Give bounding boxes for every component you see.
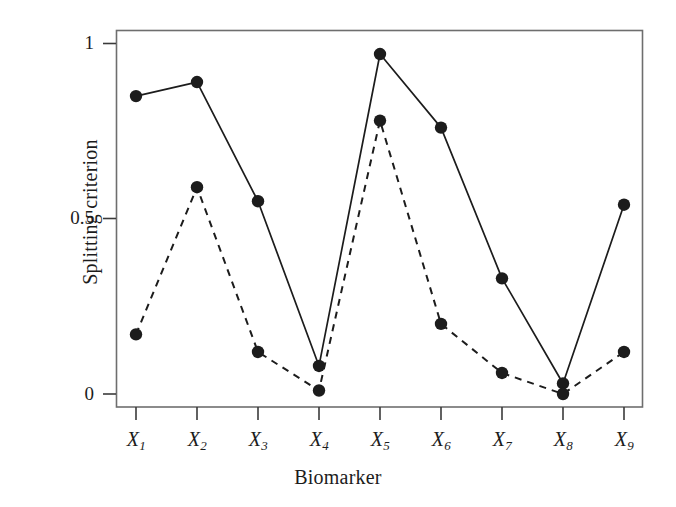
x-tick-subscript: 2 xyxy=(200,438,207,453)
x-tick-label-x6: X6 xyxy=(411,428,471,451)
y-tick-label-0: 0 xyxy=(64,383,94,405)
data-point xyxy=(557,388,569,400)
x-tick-base: X xyxy=(127,428,139,450)
x-tick-subscript: 5 xyxy=(383,438,390,453)
data-point xyxy=(130,90,142,102)
y-axis-title-wrapper: Splitting criterion xyxy=(79,42,105,382)
series-dashed xyxy=(130,114,630,400)
x-tick-base: X xyxy=(432,428,444,450)
x-tick-label-x3: X3 xyxy=(228,428,288,451)
chart-figure: 1 0.5 0 X1X2X3X4X5X6X7X8X9 Biomarker Spl… xyxy=(0,0,676,507)
x-tick-label-x1: X1 xyxy=(106,428,166,451)
data-point xyxy=(618,346,630,358)
x-tick-label-x5: X5 xyxy=(350,428,410,451)
data-point xyxy=(313,384,325,396)
x-tick-subscript: 3 xyxy=(261,438,268,453)
x-tick-subscript: 8 xyxy=(566,438,573,453)
x-tick-base: X xyxy=(310,428,322,450)
x-tick-subscript: 7 xyxy=(505,438,512,453)
x-tick-base: X xyxy=(554,428,566,450)
x-tick-base: X xyxy=(249,428,261,450)
y-axis-title: Splitting criterion xyxy=(79,42,102,382)
data-point xyxy=(496,367,508,379)
x-tick-label-x4: X4 xyxy=(289,428,349,451)
series-line-solid xyxy=(136,54,624,383)
x-tick-label-x8: X8 xyxy=(533,428,593,451)
data-point xyxy=(191,181,203,193)
data-point xyxy=(374,114,386,126)
data-point xyxy=(435,318,447,330)
data-point xyxy=(435,121,447,133)
x-tick-subscript: 4 xyxy=(322,438,329,453)
data-point xyxy=(313,360,325,372)
data-point xyxy=(496,272,508,284)
x-tick-label-x2: X2 xyxy=(167,428,227,451)
x-tick-subscript: 9 xyxy=(627,438,634,453)
x-axis-ticks xyxy=(136,407,624,420)
series-solid xyxy=(130,48,630,390)
x-tick-label-x7: X7 xyxy=(472,428,532,451)
data-point xyxy=(130,328,142,340)
data-point xyxy=(252,346,264,358)
x-axis-title: Biomarker xyxy=(0,466,676,489)
data-point xyxy=(252,195,264,207)
x-tick-subscript: 1 xyxy=(139,438,146,453)
x-tick-base: X xyxy=(493,428,505,450)
data-point xyxy=(618,199,630,211)
x-tick-base: X xyxy=(371,428,383,450)
data-point xyxy=(374,48,386,60)
x-tick-label-x9: X9 xyxy=(594,428,654,451)
x-tick-base: X xyxy=(615,428,627,450)
x-tick-base: X xyxy=(188,428,200,450)
series-line-dashed xyxy=(136,121,624,394)
x-tick-subscript: 6 xyxy=(444,438,451,453)
data-point xyxy=(191,76,203,88)
data-series-layer xyxy=(130,48,630,400)
